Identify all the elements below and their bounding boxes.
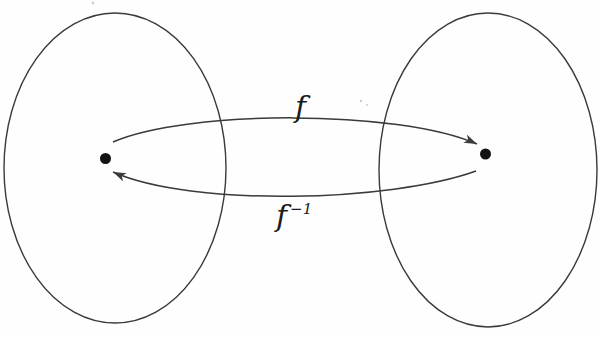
- inverse-function-label: f−1: [274, 198, 312, 233]
- right-element-dot: [480, 149, 491, 160]
- left-set-ellipse: [4, 13, 226, 323]
- diagram-canvas: f f−1: [0, 0, 600, 337]
- right-set-ellipse: [379, 13, 597, 327]
- inverse-arrow: [113, 171, 476, 196]
- scan-speck: [360, 100, 362, 102]
- inverse-function-label-superscript: −1: [290, 200, 312, 218]
- scan-speck: [92, 2, 95, 5]
- scan-speck: [366, 104, 368, 106]
- function-inverse-diagram: f f−1: [0, 0, 600, 337]
- left-element-dot: [100, 153, 111, 164]
